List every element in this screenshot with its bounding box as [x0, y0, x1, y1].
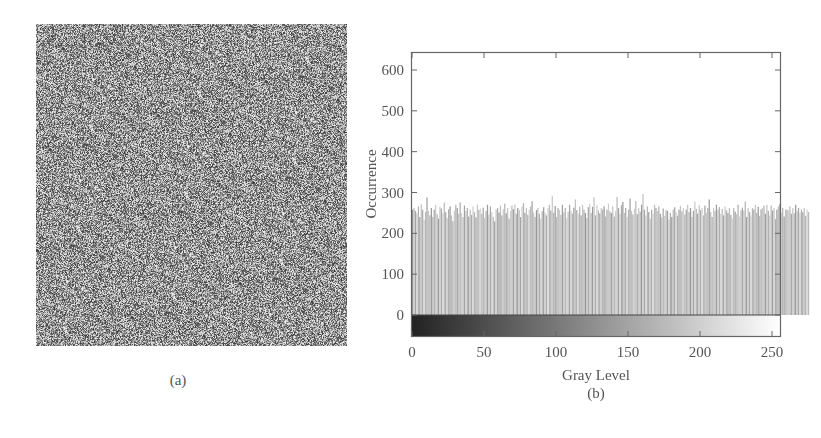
histogram-bar: [454, 210, 455, 315]
histogram-bar: [483, 208, 484, 315]
histogram-bar: [637, 214, 638, 315]
histogram-bar: [664, 216, 665, 315]
histogram-bar: [566, 218, 567, 315]
histogram-bar: [457, 208, 458, 315]
histogram-bar: [557, 208, 558, 315]
histogram-bar: [612, 206, 613, 315]
histogram-bar: [677, 216, 678, 315]
histogram-bar: [700, 210, 701, 315]
histogram-bar: [439, 207, 440, 315]
histogram-bar: [785, 210, 786, 315]
histogram-bar: [434, 210, 435, 315]
histogram-bar: [470, 210, 471, 315]
histogram-bar: [624, 213, 625, 315]
histogram-bar: [805, 216, 806, 315]
histogram-bar: [563, 212, 564, 315]
histogram-bar: [488, 215, 489, 315]
histogram-bar: [763, 206, 764, 315]
histogram-bar: [487, 205, 488, 315]
histogram-bar: [556, 217, 557, 315]
histogram-bar: [504, 204, 505, 315]
y-tick-label: 500: [382, 103, 405, 119]
histogram-bar: [693, 211, 694, 315]
histogram-bar: [421, 204, 422, 315]
histogram-bar: [737, 205, 738, 315]
histogram-bar: [642, 194, 643, 315]
histogram-bar: [727, 213, 728, 315]
histogram-bar: [657, 211, 658, 315]
histogram-bar: [544, 213, 545, 315]
histogram-bar: [452, 221, 453, 315]
histogram-bar: [474, 212, 475, 315]
histogram-bar: [724, 206, 725, 315]
histogram-bar: [788, 210, 789, 315]
histogram-bar: [756, 213, 757, 315]
histogram-bar: [441, 208, 442, 315]
histogram-bar: [647, 206, 648, 315]
histogram-bar: [480, 208, 481, 315]
histogram-bar: [438, 219, 439, 315]
histogram-bar: [602, 210, 603, 315]
y-tick-label: 600: [382, 62, 405, 78]
histogram-bar: [667, 211, 668, 315]
histogram-bar: [713, 208, 714, 315]
histogram-bar: [416, 213, 417, 315]
histogram-bar: [750, 215, 751, 315]
histogram-bars: [412, 194, 809, 315]
histogram-bar: [578, 214, 579, 315]
histogram-bar: [575, 199, 576, 315]
histogram-bar: [768, 211, 769, 315]
histogram-bar: [791, 214, 792, 315]
histogram-bar: [461, 213, 462, 315]
histogram-bar: [730, 215, 731, 315]
y-tick-label: 0: [397, 307, 405, 323]
histogram-bar: [568, 212, 569, 315]
histogram-bar: [684, 215, 685, 315]
histogram-bar: [458, 214, 459, 315]
y-tick-label: 100: [382, 266, 405, 282]
histogram-bar: [506, 213, 507, 315]
histogram-bar: [500, 206, 501, 315]
histogram-bar: [746, 217, 747, 315]
histogram-bar: [451, 215, 452, 315]
histogram-bar: [716, 205, 717, 315]
histogram-bar: [799, 213, 800, 315]
histogram-bar: [419, 217, 420, 315]
histogram-bar: [501, 215, 502, 315]
histogram-bar: [769, 215, 770, 315]
histogram-bar: [772, 210, 773, 315]
histogram-bar: [537, 208, 538, 315]
histogram-bar: [740, 210, 741, 315]
histogram-bar: [676, 212, 677, 315]
histogram-bar: [743, 210, 744, 315]
histogram-bar: [432, 217, 433, 315]
histogram-bar: [511, 206, 512, 315]
histogram-bar: [640, 212, 641, 315]
histogram-bar: [758, 207, 759, 315]
histogram-bar: [706, 213, 707, 315]
histogram-bar: [802, 212, 803, 315]
histogram-bar: [703, 215, 704, 315]
x-tick-label: 250: [761, 344, 784, 360]
histogram-bar: [681, 211, 682, 315]
histogram-bar: [592, 207, 593, 315]
histogram-bar: [722, 209, 723, 315]
histogram-bar: [549, 205, 550, 315]
histogram-bar: [530, 206, 531, 315]
histogram-bar: [570, 211, 571, 315]
histogram-bar: [691, 217, 692, 315]
histogram-bar: [412, 210, 413, 315]
histogram-bar: [547, 208, 548, 315]
histogram-bar: [595, 215, 596, 315]
histogram-bar: [460, 202, 461, 315]
histogram-bar: [618, 208, 619, 315]
colorbar: [412, 315, 780, 336]
histogram-bar: [665, 210, 666, 315]
histogram-bar: [634, 209, 635, 315]
histogram-bar: [431, 208, 432, 315]
histogram-bar: [496, 210, 497, 315]
histogram-bar: [478, 210, 479, 315]
histogram-bar: [655, 208, 656, 315]
x-tick-label: 200: [689, 344, 712, 360]
histogram-bar: [645, 215, 646, 315]
